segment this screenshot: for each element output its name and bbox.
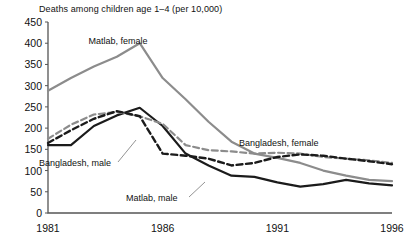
leader-line: [118, 140, 136, 162]
x-tick-1991: 1991: [266, 222, 290, 234]
y-tick-400: 400: [24, 37, 42, 49]
y-tick-200: 200: [24, 122, 42, 134]
annotation-leader-lines: [118, 140, 205, 197]
x-axis-tick-labels: 1981198619911996: [36, 222, 404, 234]
x-tick-1996: 1996: [380, 222, 404, 234]
x-tick-1986: 1986: [151, 222, 175, 234]
annotation-matlab-female: Matlab, female: [88, 36, 147, 46]
series-line-bangladesh-female: [48, 112, 392, 163]
chart-container: Deaths among children age 1–4 (per 10,00…: [0, 0, 409, 246]
y-tick-0: 0: [36, 207, 42, 219]
y-tick-300: 300: [24, 80, 42, 92]
annotation-bangladesh-female: Bangladesh, female: [239, 138, 319, 148]
y-tick-350: 350: [24, 58, 42, 70]
annotation-matlab-male: Matlab, male: [126, 193, 178, 203]
line-chart-plot: 450400350300250200150100500 198119861991…: [0, 0, 409, 246]
leader-line: [189, 182, 205, 197]
y-tick-150: 150: [24, 143, 42, 155]
y-tick-50: 50: [30, 186, 42, 198]
y-tick-450: 450: [24, 16, 42, 28]
annotation-bangladesh-male: Bangladesh, male: [39, 158, 111, 168]
x-tick-1981: 1981: [36, 222, 60, 234]
y-tick-250: 250: [24, 101, 42, 113]
y-axis-tick-labels: 450400350300250200150100500: [24, 16, 48, 219]
